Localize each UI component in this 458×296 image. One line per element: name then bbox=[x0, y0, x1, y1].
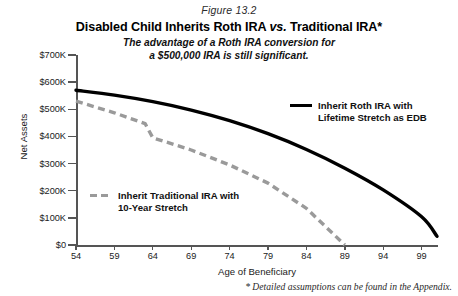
x-axis-tick bbox=[421, 246, 422, 250]
legend-roth-line-2: Lifetime Stretch as EDB bbox=[318, 112, 427, 124]
x-axis-tick bbox=[191, 246, 192, 250]
y-axis-tick bbox=[68, 190, 76, 191]
y-axis-tick bbox=[68, 54, 76, 55]
x-axis-tick bbox=[75, 246, 76, 250]
x-axis-tick bbox=[267, 246, 268, 250]
x-axis-tick bbox=[114, 246, 115, 250]
series-plot bbox=[0, 0, 458, 296]
x-axis-tick bbox=[229, 246, 230, 250]
footnote: * Detailed assumptions can be found in t… bbox=[0, 281, 452, 292]
legend-traditional-line-1: Inherit Traditional IRA with bbox=[118, 190, 239, 201]
x-axis-tick bbox=[306, 246, 307, 250]
y-axis-tick bbox=[68, 163, 76, 164]
y-axis-tick bbox=[68, 109, 76, 110]
x-axis-tick bbox=[344, 246, 345, 250]
legend-roth-ira: Inherit Roth IRA with Lifetime Stretch a… bbox=[290, 100, 450, 123]
y-axis-tick bbox=[68, 217, 76, 218]
legend-roth-line-1: Inherit Roth IRA with bbox=[318, 100, 413, 111]
y-axis-tick bbox=[68, 81, 76, 82]
legend-roth-label: Inherit Roth IRA with Lifetime Stretch a… bbox=[318, 100, 427, 123]
legend-traditional-label: Inherit Traditional IRA with 10-Year Str… bbox=[118, 190, 239, 213]
legend-traditional-line-2: 10-Year Stretch bbox=[118, 202, 239, 214]
legend-traditional-ira: Inherit Traditional IRA with 10-Year Str… bbox=[90, 190, 280, 213]
x-axis-tick bbox=[152, 246, 153, 250]
x-axis-tick bbox=[383, 246, 384, 250]
legend-solid-line-icon bbox=[290, 100, 312, 112]
figure-container: Figure 13.2 Disabled Child Inherits Roth… bbox=[0, 0, 458, 296]
legend-dashed-line-icon bbox=[90, 190, 112, 202]
y-axis-tick bbox=[68, 136, 76, 137]
